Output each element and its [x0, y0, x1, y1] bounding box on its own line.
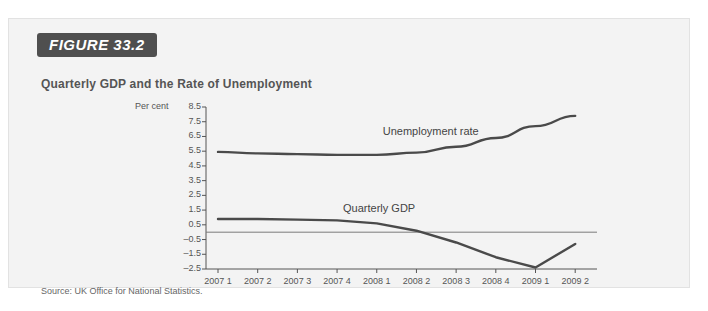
chart-plot-area: Per cent 8.57.56.55.54.53.52.51.50.5–0.5… [9, 19, 708, 311]
x-axis-tick-label: 2008 2 [394, 277, 438, 286]
series-label-unemployment-rate: Unemployment rate [383, 125, 479, 137]
x-axis-tick-label: 2009 2 [553, 277, 597, 286]
y-axis-tick-label: 0.5 [175, 220, 201, 229]
y-axis-tick-label: 1.5 [175, 205, 201, 214]
y-axis-tick-label: 6.5 [175, 131, 201, 140]
y-axis-tick-label: –2.5 [175, 264, 201, 273]
x-axis-tick-label: 2007 3 [275, 277, 319, 286]
source-note: Source: UK Office for National Statistic… [41, 286, 202, 296]
y-axis-tick-label: –1.5 [175, 249, 201, 258]
x-axis-tick-label: 2007 1 [196, 277, 240, 286]
y-axis-tick-label: –0.5 [175, 235, 201, 244]
x-axis-tick-label: 2009 1 [514, 277, 558, 286]
chart-svg [9, 19, 708, 311]
y-axis-tick-label: 3.5 [175, 176, 201, 185]
y-axis-tick-label: 5.5 [175, 146, 201, 155]
y-axis-unit-label: Per cent [135, 101, 169, 111]
x-axis-tick-label: 2008 1 [355, 277, 399, 286]
x-axis-tick-label: 2007 2 [236, 277, 280, 286]
series-label-quarterly-gdp: Quarterly GDP [343, 202, 415, 214]
figure-number-badge: FIGURE 33.2 [37, 33, 157, 57]
figure-panel: FIGURE 33.2 Quarterly GDP and the Rate o… [8, 18, 690, 288]
y-axis-tick-label: 8.5 [175, 102, 201, 111]
x-axis-tick-label: 2008 4 [474, 277, 518, 286]
x-axis-tick-label: 2007 4 [315, 277, 359, 286]
figure-title: Quarterly GDP and the Rate of Unemployme… [41, 77, 312, 91]
x-axis-tick-label: 2008 3 [434, 277, 478, 286]
y-axis-tick-label: 2.5 [175, 190, 201, 199]
y-axis-tick-label: 4.5 [175, 161, 201, 170]
y-axis-tick-label: 7.5 [175, 117, 201, 126]
